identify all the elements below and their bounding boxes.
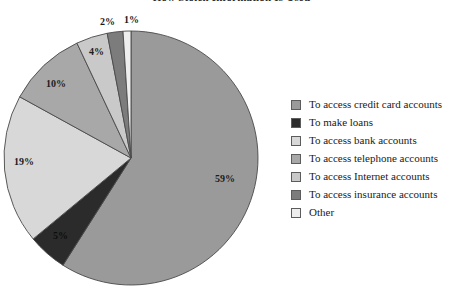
chart-page: How Stolen Information Is Used 59% 5% 19…: [0, 0, 463, 296]
slice-label-bank: 19%: [14, 157, 34, 167]
legend-item-label: To access telephone accounts: [309, 153, 438, 164]
legend-item[interactable]: To access insurance accounts: [291, 186, 463, 203]
slice-label-loans: 5%: [53, 231, 68, 241]
legend-item-label: To make loans: [309, 117, 373, 128]
legend-item-label: To access bank accounts: [309, 135, 417, 146]
slice-label-internet: 4%: [89, 47, 104, 57]
legend-swatch-icon: [291, 118, 301, 128]
slice-label-other: 1%: [124, 15, 139, 25]
legend-item-label: To access Internet accounts: [309, 171, 429, 182]
legend-swatch-icon: [291, 172, 301, 182]
legend-item-label: To access credit card accounts: [309, 99, 442, 110]
slice-label-credit-card: 59%: [215, 174, 235, 184]
legend: To access credit card accounts To make l…: [291, 96, 463, 222]
pie-chart: 59% 5% 19% 10% 4% 2% 1%: [0, 0, 290, 296]
slice-label-telephone: 10%: [46, 79, 66, 89]
legend-item[interactable]: To make loans: [291, 114, 463, 131]
slice-label-insurance: 2%: [100, 17, 115, 27]
legend-item[interactable]: To access bank accounts: [291, 132, 463, 149]
pie-svg: [0, 0, 290, 296]
legend-swatch-icon: [291, 190, 301, 200]
legend-item[interactable]: To access telephone accounts: [291, 150, 463, 167]
legend-item-label: To access insurance accounts: [309, 189, 437, 200]
legend-item-label: Other: [309, 207, 334, 218]
legend-swatch-icon: [291, 208, 301, 218]
pie-slices: [4, 31, 258, 285]
legend-item[interactable]: To access credit card accounts: [291, 96, 463, 113]
legend-swatch-icon: [291, 154, 301, 164]
legend-swatch-icon: [291, 100, 301, 110]
legend-item[interactable]: To access Internet accounts: [291, 168, 463, 185]
legend-swatch-icon: [291, 136, 301, 146]
legend-item[interactable]: Other: [291, 204, 463, 221]
